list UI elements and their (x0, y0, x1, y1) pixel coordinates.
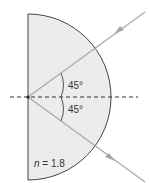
refraction-diagram: 45° 45° n = 1.8 (0, 0, 149, 183)
incident-arrow-icon (114, 26, 124, 34)
angle-label-lower: 45° (68, 104, 83, 115)
index-value: = 1.8 (40, 158, 66, 169)
refractive-index-label: n = 1.8 (34, 158, 65, 169)
angle-label-upper: 45° (68, 80, 83, 91)
center-point (27, 96, 30, 99)
